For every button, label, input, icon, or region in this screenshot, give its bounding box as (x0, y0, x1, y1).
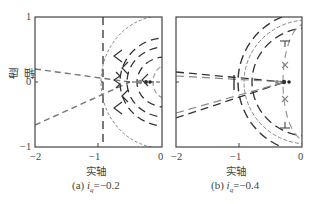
caption-a-value: =−0.2 (94, 179, 120, 191)
xtick-neg1-a: −1 (89, 151, 100, 162)
xtick-0-b: 0 (298, 151, 303, 162)
plot-area-b (0, 0, 313, 150)
caption-b-value: =−0.4 (233, 179, 259, 191)
xtick-neg2-b: −2 (171, 151, 182, 162)
caption-b-prefix: (b) (211, 179, 224, 191)
xtick-neg1-b: −1 (230, 151, 241, 162)
caption-a-prefix: (a) (72, 179, 84, 191)
caption-a: (a) iq=−0.2 (72, 179, 120, 194)
x-axis-label-a: 实轴 (86, 163, 106, 178)
xtick-neg2-a: −2 (30, 151, 41, 162)
xtick-0-a: 0 (158, 151, 163, 162)
caption-b: (b) iq=−0.4 (211, 179, 259, 194)
x-axis-label-b: 实轴 (226, 163, 246, 178)
